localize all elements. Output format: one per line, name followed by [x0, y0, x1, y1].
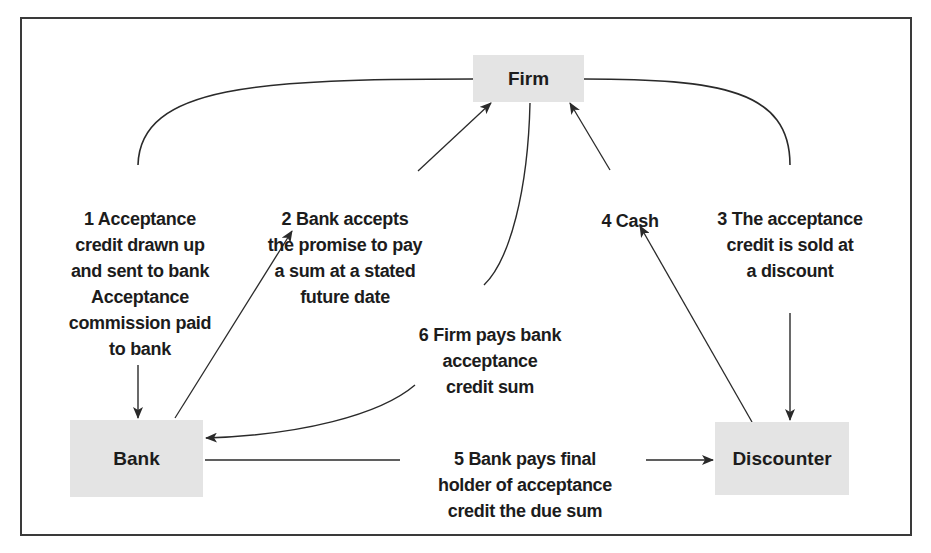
step-3-text: The acceptance credit is sold at a disco… — [727, 209, 863, 281]
step-2-label: 2 Bank accepts the promise to pay a sum … — [245, 180, 445, 310]
step-2-text: Bank accepts the promise to pay a sum at… — [268, 209, 423, 307]
step-2-number: 2 — [282, 209, 292, 229]
node-discounter-label: Discounter — [732, 448, 831, 470]
step-3-label: 3 The acceptance credit is sold at a dis… — [690, 180, 890, 284]
step-4-label: 4 Cash — [585, 182, 675, 234]
arrow-step-4-upper — [570, 103, 610, 170]
arrow-step-2-upper — [418, 103, 491, 171]
node-bank: Bank — [70, 420, 203, 497]
step-5-label: 5 Bank pays final holder of acceptance c… — [395, 420, 655, 524]
arrow-step-1 — [138, 79, 473, 165]
step-4-text: Cash — [616, 211, 659, 231]
node-firm: Firm — [473, 55, 584, 102]
arrow-step-6-lower — [206, 385, 415, 438]
step-6-number: 6 — [419, 325, 429, 345]
step-3-number: 3 — [717, 209, 727, 229]
node-bank-label: Bank — [113, 448, 159, 470]
node-firm-label: Firm — [508, 68, 549, 90]
step-4-number: 4 — [601, 211, 611, 231]
arrow-step-3 — [584, 79, 790, 165]
step-1-label: 1 Acceptance credit drawn up and sent to… — [40, 180, 240, 362]
step-5-text: Bank pays final holder of acceptance cre… — [438, 449, 612, 521]
step-6-label: 6 Firm pays bank acceptance credit sum — [390, 296, 590, 400]
step-6-text: Firm pays bank acceptance credit sum — [433, 325, 561, 397]
step-1-text: Acceptance credit drawn up and sent to b… — [69, 209, 212, 359]
node-discounter: Discounter — [715, 422, 849, 495]
arrow-step-6-upper — [484, 103, 530, 285]
step-5-number: 5 — [454, 449, 464, 469]
step-1-number: 1 — [84, 209, 94, 229]
